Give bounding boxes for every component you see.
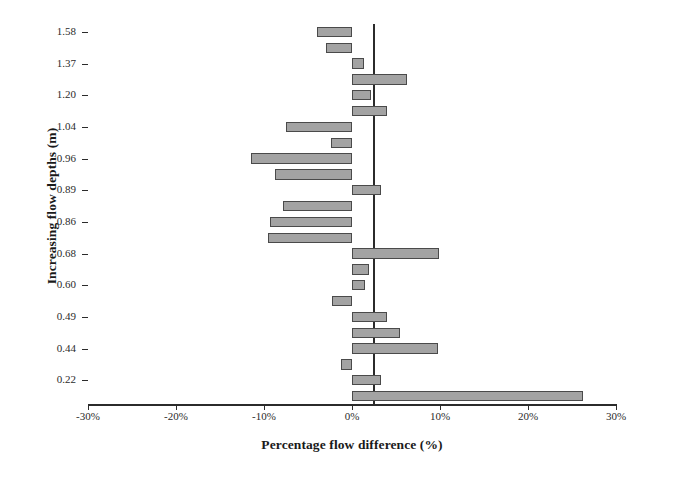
- bar: [286, 122, 352, 132]
- bar: [268, 233, 352, 243]
- bar: [270, 217, 352, 227]
- bar: [352, 343, 438, 353]
- bar: [251, 153, 352, 163]
- y-tick-label: 1.58: [20, 25, 76, 37]
- bar: [352, 328, 400, 338]
- bar: [352, 58, 364, 68]
- x-tick-label: 20%: [493, 410, 563, 422]
- y-tick-mark: [82, 64, 88, 65]
- y-tick-label: 1.37: [20, 57, 76, 69]
- bar: [352, 264, 369, 274]
- x-axis-title: Percentage flow difference (%): [88, 437, 616, 453]
- bar: [341, 359, 352, 369]
- y-tick-mark: [82, 317, 88, 318]
- bar: [275, 169, 352, 179]
- y-tick-mark: [82, 222, 88, 223]
- y-tick-label: 1.20: [20, 88, 76, 100]
- y-tick-label: 0.22: [20, 373, 76, 385]
- y-tick-mark: [82, 380, 88, 381]
- bar: [352, 248, 439, 258]
- bar: [326, 43, 352, 53]
- bar: [352, 391, 583, 401]
- x-tick-label: -20%: [141, 410, 211, 422]
- y-tick-label: 1.04: [20, 120, 76, 132]
- y-tick-label: 0.49: [20, 310, 76, 322]
- y-tick-mark: [82, 285, 88, 286]
- x-tick-label: 0%: [317, 410, 387, 422]
- y-tick-label: 0.60: [20, 278, 76, 290]
- chart-figure: Increasing flow depths (m) Percentage fl…: [0, 0, 689, 485]
- bar: [352, 312, 387, 322]
- x-tick-label: -10%: [229, 410, 299, 422]
- y-tick-mark: [82, 32, 88, 33]
- bar: [331, 138, 352, 148]
- plot-area: [88, 24, 616, 404]
- bar: [352, 185, 381, 195]
- y-tick-mark: [82, 190, 88, 191]
- y-tick-label: 0.86: [20, 215, 76, 227]
- bar: [317, 27, 352, 37]
- y-tick-label: 0.96: [20, 152, 76, 164]
- x-tick-label: 10%: [405, 410, 475, 422]
- y-tick-mark: [82, 127, 88, 128]
- bar: [283, 201, 352, 211]
- y-tick-label: 0.44: [20, 342, 76, 354]
- bar: [352, 375, 381, 385]
- y-tick-mark: [82, 159, 88, 160]
- bar: [352, 280, 365, 290]
- y-tick-mark: [82, 95, 88, 96]
- bar: [352, 106, 387, 116]
- y-tick-mark: [82, 349, 88, 350]
- bar: [352, 90, 371, 100]
- y-tick-label: 0.68: [20, 247, 76, 259]
- x-tick-label: 30%: [581, 410, 651, 422]
- x-tick-label: -30%: [53, 410, 123, 422]
- bar: [352, 74, 407, 84]
- y-tick-label: 0.89: [20, 183, 76, 195]
- y-tick-mark: [82, 254, 88, 255]
- bar: [332, 296, 352, 306]
